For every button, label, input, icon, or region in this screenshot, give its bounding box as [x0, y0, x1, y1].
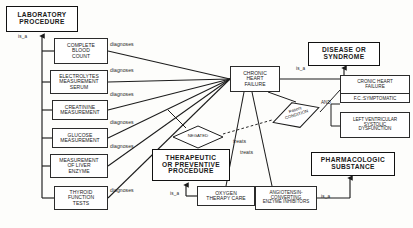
node-label: LABORATORYPROCEDURE — [17, 12, 66, 25]
node-glucose-measurement[interactable]: GLUCOSEMEASUREMENT — [52, 128, 108, 148]
node-label: THYROIDFUNCTIONTESTS — [68, 190, 94, 205]
edge-label-diagnoses-4: diagnoses — [110, 119, 134, 125]
node-complete-blood-count[interactable]: COMPLETEBLOODCOUNT — [54, 38, 108, 64]
node-oxygen-therapy-care[interactable]: OXYGENTHERAPY CARE — [197, 186, 255, 206]
edge-label-diagnoses-2: diagnoses — [110, 67, 134, 73]
edge-label-is-a-disease: is_a — [296, 66, 305, 71]
node-label-bottom: F.C.:SYMPTOMATIC — [341, 94, 409, 102]
node-label: PHARMACOLOGICSUBSTANCE — [321, 157, 385, 170]
node-thyroid-function-tests[interactable]: THYROIDFUNCTIONTESTS — [54, 186, 108, 210]
node-label: DISEASE ORSYNDROME — [322, 47, 366, 60]
isa-edge-disease — [280, 68, 344, 79]
node-laboratory-procedure[interactable]: LABORATORYPROCEDURE — [6, 6, 78, 32]
edge-label-diagnoses-3: diagnoses — [110, 91, 134, 97]
node-label: OXYGENTHERAPY CARE — [206, 191, 245, 201]
isa-label-therapeutic-procedure: is_a — [170, 191, 179, 196]
node-chronic-heart-failure[interactable]: CHRONICHEARTFAILURE — [230, 66, 280, 92]
node-chronic-heart-failure-fc[interactable]: CRONIC HEARTFAILURE F.C.:SYMPTOMATIC — [340, 75, 410, 103]
node-label: COMPLETEBLOODCOUNT — [67, 43, 95, 58]
node-angiotensin-converting-enzyme-inhibitors[interactable]: ANGIOTENSIN-CONVERTINGENZYME INHIBITORS — [255, 186, 317, 210]
operator-and: AND — [321, 100, 331, 105]
node-therapeutic-or-preventive-procedure[interactable]: THERAPEUTICOR PREVENTIVEPROCEDURE — [152, 149, 230, 181]
node-label: ELECTROLYTESMEASUREMENTSERUM — [59, 74, 99, 89]
node-label: THERAPEUTICOR PREVENTIVEPROCEDURE — [162, 155, 220, 175]
node-disease-or-syndrome[interactable]: DISEASE ORSYNDROME — [308, 42, 380, 66]
edge-label-treats-1: treats — [233, 138, 246, 144]
node-label: ANGIOTENSIN-CONVERTINGENZYME INHIBITORS — [263, 191, 310, 205]
node-label: LEFT VENTRICULARSYSTOLICDYSFUNCTION — [353, 118, 397, 132]
node-label: CHRONICHEARTFAILURE — [243, 71, 267, 86]
node-label: MEASUREMENTOF LIVERENZYME — [59, 158, 98, 173]
node-pharmacologic-substance[interactable]: PHARMACOLOGICSUBSTANCE — [311, 152, 395, 176]
node-label: GLUCOSEMEASUREMENT — [60, 133, 99, 143]
node-electrolytes-measurement-serum[interactable]: ELECTROLYTESMEASUREMENTSERUM — [50, 70, 108, 94]
negated-link — [223, 120, 272, 134]
edge-label-diagnoses-6: diagnoses — [110, 187, 134, 193]
isa-edge-therapeutic — [186, 185, 197, 196]
node-measurement-of-liver-enzyme[interactable]: MEASUREMENTOF LIVERENZYME — [50, 154, 108, 178]
node-label: CREATININEMEASUREMENT — [60, 105, 99, 115]
isa-label-pharmacologic-substance: is_a — [321, 194, 330, 199]
node-left-ventricular-systolic-dysfunction[interactable]: LEFT VENTRICULARSYSTOLICDYSFUNCTION — [340, 112, 410, 138]
node-creatinine-measurement[interactable]: CREATININEMEASUREMENT — [52, 100, 108, 120]
isa-label-laboratory-procedure: is_a — [18, 34, 27, 39]
edge-label-treats-2: treats — [240, 149, 253, 155]
edge-label-diagnoses-1: diagnoses — [110, 41, 134, 47]
edge-label-diagnoses-5: diagnoses — [110, 143, 134, 149]
node-label-top: CRONIC HEARTFAILURE — [341, 76, 409, 94]
diamond-label-negated: NEGATED — [183, 134, 213, 139]
